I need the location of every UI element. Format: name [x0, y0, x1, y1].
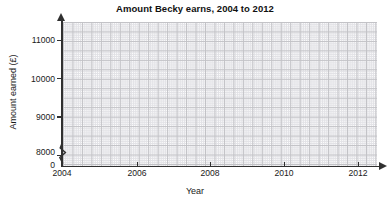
x-axis-line	[62, 166, 382, 168]
y-axis-title: Amount earned (£)	[8, 17, 18, 167]
x-tick-label-2008: 2008	[190, 168, 230, 178]
x-tick-label-2004: 2004	[42, 168, 82, 178]
x-axis-arrow-icon	[379, 162, 387, 170]
x-tick-label-2006: 2006	[117, 168, 157, 178]
plot-grid-area	[63, 22, 377, 166]
x-tick-mark-2010	[284, 162, 285, 167]
x-tick-label-2010: 2010	[264, 168, 304, 178]
y-tick-mark-11000	[57, 40, 63, 41]
x-tick-mark-2006	[137, 162, 138, 167]
x-tick-mark-2012	[358, 162, 359, 167]
y-axis-arrow-icon	[57, 13, 65, 21]
y-tick-mark-10000	[57, 78, 63, 79]
y-tick-mark-9000	[57, 116, 63, 117]
x-tick-mark-2004	[62, 162, 63, 167]
x-axis-title: Year	[0, 186, 390, 196]
x-tick-mark-2008	[210, 162, 211, 167]
chart-container: Amount Becky earns, 2004 to 2012 11000 1…	[0, 0, 390, 209]
x-tick-label-2012: 2012	[338, 168, 378, 178]
